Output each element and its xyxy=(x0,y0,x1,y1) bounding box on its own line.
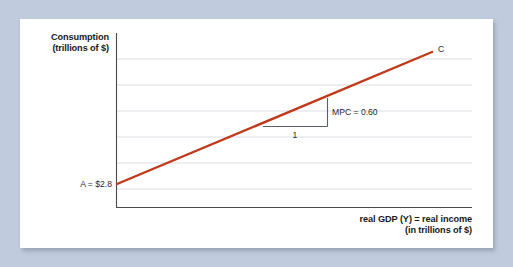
y-axis-title-line2: (trillions of $) xyxy=(52,43,109,53)
chart-panel: Consumption (trillions of $) real GDP (Y… xyxy=(20,19,493,248)
consumption-line xyxy=(117,52,432,184)
run-label: 1 xyxy=(293,130,298,140)
curve-label-c: C xyxy=(438,44,444,54)
chart-plot-area: Consumption (trillions of $) real GDP (Y… xyxy=(20,19,493,248)
y-axis-title-line1: Consumption xyxy=(51,32,110,42)
gridlines xyxy=(117,59,472,189)
mpc-label: MPC = 0.60 xyxy=(332,107,378,117)
slope-triangle xyxy=(263,98,328,127)
x-axis-title-line1: real GDP (Y) = real income xyxy=(360,214,472,224)
x-axis-title-line2: (in trillions of $) xyxy=(405,225,472,235)
intercept-label: A = $2.8 xyxy=(80,179,112,189)
figure-root: Consumption (trillions of $) real GDP (Y… xyxy=(0,0,513,267)
